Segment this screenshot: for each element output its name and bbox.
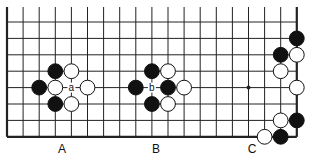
point-label-b: b <box>149 82 155 93</box>
white-stone <box>257 129 272 144</box>
white-stone <box>289 47 304 62</box>
white-stone <box>64 97 79 112</box>
caption-a: A <box>58 143 66 155</box>
white-stone <box>64 64 79 79</box>
black-stone <box>145 64 160 79</box>
white-stone <box>80 80 95 95</box>
white-stone <box>273 64 288 79</box>
black-stone <box>128 80 143 95</box>
point-label-a: a <box>69 82 75 93</box>
white-stone <box>161 64 176 79</box>
white-stone <box>289 80 304 95</box>
black-stone <box>161 80 176 95</box>
black-stone <box>145 97 160 112</box>
caption-c: C <box>248 143 257 155</box>
go-board: ab <box>0 0 313 163</box>
white-stone <box>161 97 176 112</box>
black-stone <box>289 31 304 46</box>
caption-b: B <box>152 143 160 155</box>
white-stone <box>48 80 63 95</box>
white-stone <box>273 113 288 128</box>
star-points <box>247 86 251 90</box>
black-stone <box>273 129 288 144</box>
star-point <box>247 86 251 90</box>
black-stone <box>48 64 63 79</box>
black-stone <box>289 113 304 128</box>
white-stone <box>177 80 192 95</box>
black-stone <box>32 80 47 95</box>
black-stone <box>273 47 288 62</box>
black-stone <box>48 97 63 112</box>
